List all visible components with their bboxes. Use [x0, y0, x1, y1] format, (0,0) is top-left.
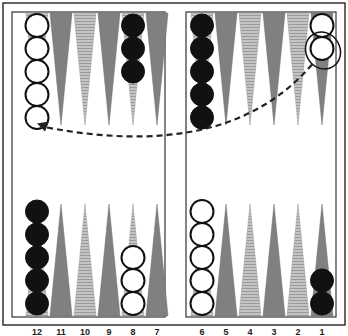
point-numbers-left: 12 11 10 9 8 7: [12, 326, 165, 336]
point-number: 11: [49, 326, 73, 336]
white-checker[interactable]: [26, 83, 49, 106]
black-checker[interactable]: [191, 14, 214, 37]
point-number: 4: [238, 326, 262, 336]
black-checker[interactable]: [191, 83, 214, 106]
white-checker[interactable]: [311, 37, 334, 60]
white-checker[interactable]: [191, 223, 214, 246]
backgammon-board: [0, 0, 348, 336]
white-checker[interactable]: [191, 200, 214, 223]
white-checker[interactable]: [26, 60, 49, 83]
black-checker[interactable]: [191, 60, 214, 83]
white-checker[interactable]: [26, 37, 49, 60]
white-checker[interactable]: [191, 292, 214, 315]
black-checker[interactable]: [311, 292, 334, 315]
black-checker[interactable]: [26, 223, 49, 246]
white-checker[interactable]: [122, 269, 145, 292]
white-checker[interactable]: [191, 269, 214, 292]
black-checker[interactable]: [122, 37, 145, 60]
white-checker[interactable]: [26, 14, 49, 37]
black-checker[interactable]: [311, 269, 334, 292]
black-checker[interactable]: [122, 60, 145, 83]
point-number: 6: [190, 326, 214, 336]
white-checker[interactable]: [122, 292, 145, 315]
point-number: 3: [262, 326, 286, 336]
point-number: 9: [97, 326, 121, 336]
black-checker[interactable]: [122, 14, 145, 37]
point-number: 10: [73, 326, 97, 336]
point-number: 12: [25, 326, 49, 336]
white-checker[interactable]: [122, 246, 145, 269]
black-checker[interactable]: [26, 246, 49, 269]
white-checker[interactable]: [191, 246, 214, 269]
black-checker[interactable]: [191, 37, 214, 60]
point-number: 5: [214, 326, 238, 336]
black-checker[interactable]: [191, 106, 214, 129]
black-checker[interactable]: [26, 269, 49, 292]
point-number: 1: [310, 326, 334, 336]
black-checker[interactable]: [26, 292, 49, 315]
point-numbers-right: 6 5 4 3 2 1: [186, 326, 336, 336]
point-number: 7: [145, 326, 169, 336]
point-number: 8: [121, 326, 145, 336]
point-number: 2: [286, 326, 310, 336]
black-checker[interactable]: [26, 200, 49, 223]
